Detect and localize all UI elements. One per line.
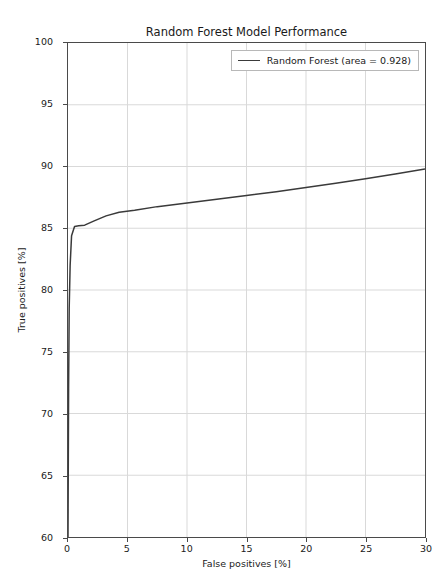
x-tick-label: 25 [346,543,386,554]
x-tick-mark [67,538,68,542]
legend-label: Random Forest (area = 0.928) [267,55,411,66]
chart-figure: Random Forest Model Performance Random F… [0,0,446,587]
y-tick-label: 70 [0,408,60,419]
y-tick-mark [63,414,67,415]
x-tick-label: 0 [47,543,87,554]
y-tick-mark [63,290,67,291]
x-tick-label: 5 [107,543,147,554]
x-tick-mark [247,538,248,542]
y-tick-mark [63,166,67,167]
y-tick-label: 65 [0,470,60,481]
legend-line-swatch [238,60,260,62]
y-tick-mark [63,104,67,105]
y-tick-mark [63,476,67,477]
y-tick-mark [63,352,67,353]
x-tick-label: 20 [286,543,326,554]
x-tick-mark [127,538,128,542]
y-tick-label: 80 [0,284,60,295]
y-tick-label: 100 [0,36,60,47]
y-tick-label: 60 [0,532,60,543]
x-tick-mark [187,538,188,542]
x-tick-label: 15 [227,543,267,554]
y-axis-title: True positives [%] [14,42,30,538]
chart-title: Random Forest Model Performance [67,25,426,39]
x-tick-label: 10 [167,543,207,554]
y-tick-mark [63,228,67,229]
chart-legend: Random Forest (area = 0.928) [231,50,419,71]
y-tick-label: 75 [0,346,60,357]
y-tick-label: 90 [0,160,60,171]
plot-area: Random Forest (area = 0.928) [67,42,426,538]
x-tick-mark [306,538,307,542]
x-tick-label: 30 [406,543,446,554]
y-tick-label: 85 [0,222,60,233]
x-axis-title: False positives [%] [67,558,426,569]
y-tick-mark [63,42,67,43]
x-tick-mark [426,538,427,542]
x-tick-mark [366,538,367,542]
roc-curve-svg [68,43,425,537]
y-tick-label: 95 [0,98,60,109]
